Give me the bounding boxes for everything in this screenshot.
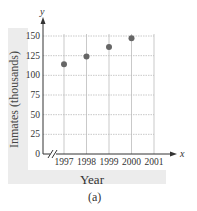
data-point	[129, 35, 135, 41]
y-tick-label: 125	[26, 51, 41, 61]
data-point	[84, 53, 90, 59]
x-tick-label: 1997	[55, 157, 74, 167]
x-axis-symbol: x	[179, 148, 185, 159]
y-tick-label: 50	[31, 110, 41, 120]
x-tick-label: 1999	[100, 157, 119, 167]
x-tick-label: 2000	[122, 157, 141, 167]
data-point	[61, 61, 67, 67]
x-tick-label: 2001	[145, 157, 164, 167]
y-tick-label: 150	[26, 31, 41, 41]
x-axis-arrow-icon	[170, 152, 177, 157]
scatter-plot: yx025507510012515019971998199920002001	[0, 0, 197, 211]
y-axis-symbol: y	[39, 6, 45, 17]
x-tick-label: 1998	[77, 157, 96, 167]
y-tick-label: 25	[31, 129, 41, 139]
data-point	[106, 44, 112, 50]
y-axis-arrow-icon	[41, 17, 46, 24]
y-tick-label: 0	[35, 149, 40, 159]
y-tick-label: 100	[26, 70, 41, 80]
y-tick-label: 75	[31, 90, 41, 100]
